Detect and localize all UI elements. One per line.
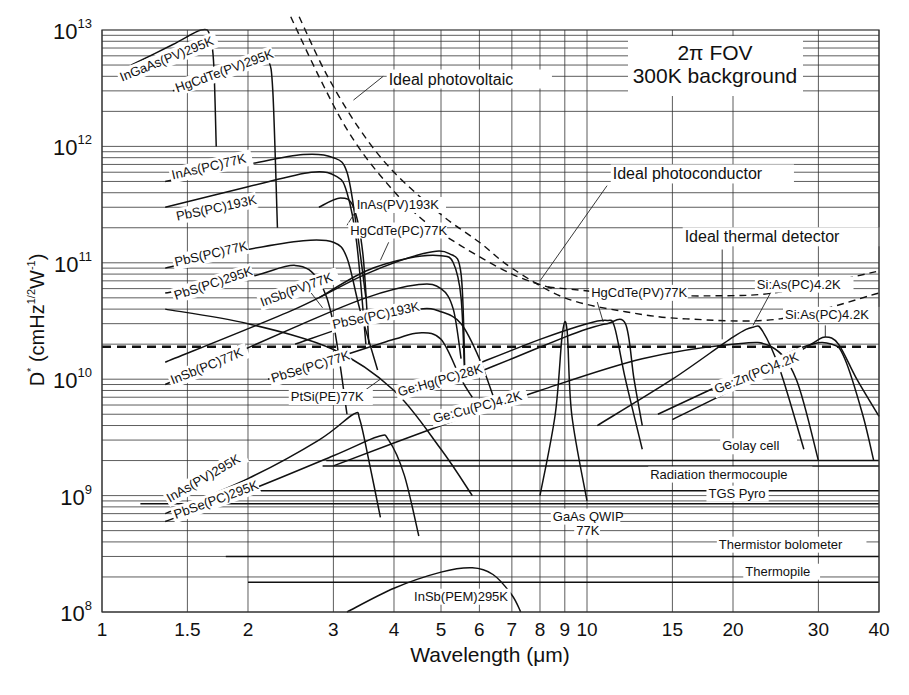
- y-tick-label: 109: [60, 482, 92, 510]
- curve-label: Ideal photoconductor: [611, 164, 794, 183]
- curve-label: PbSe(PC)77K: [267, 347, 352, 387]
- x-tick-label: 30: [808, 619, 829, 640]
- curve-label: PbS(PC)77K: [171, 238, 249, 271]
- svg-text:Golay cell: Golay cell: [722, 438, 779, 453]
- curve-label: Ideal thermal detector: [683, 227, 884, 246]
- detectivity-chart: InGaAs(PV)295KHgCdTe(PV)295KIdeal photov…: [0, 0, 909, 695]
- curve-label: Golay cell: [720, 438, 797, 454]
- curve-label: Radiation thermocouple: [648, 467, 812, 483]
- svg-text:D* (cmHz1/2W-1): D* (cmHz1/2W-1): [25, 254, 48, 387]
- svg-text:Ge:Zn(PC)4.2K: Ge:Zn(PC)4.2K: [712, 349, 801, 397]
- svg-text:77K: 77K: [576, 523, 599, 538]
- curve-ideal-photovoltaic: [291, 17, 553, 289]
- curve-label: HgCdTe(PV)77K: [589, 285, 688, 301]
- y-axis-label: D* (cmHz1/2W-1): [25, 254, 48, 387]
- plot-frame: [102, 30, 879, 612]
- svg-text:Thermistor bolometer: Thermistor bolometer: [719, 537, 843, 552]
- svg-text:TGS Pyro: TGS Pyro: [708, 486, 765, 501]
- curve-label: Thermistor bolometer: [717, 537, 867, 553]
- svg-text:HgCdTe(PV)77K: HgCdTe(PV)77K: [591, 285, 687, 300]
- fov-annotation-line2: 300K background: [633, 64, 798, 87]
- x-tick-label: 3: [328, 619, 339, 640]
- x-tick-label: 1.5: [174, 619, 200, 640]
- y-tick-label: 108: [60, 598, 92, 626]
- svg-text:HgCdTe(PC)77K: HgCdTe(PC)77K: [350, 223, 447, 238]
- svg-text:Ideal thermal detector: Ideal thermal detector: [685, 228, 840, 245]
- curve-label: Ideal photovoltaic: [387, 70, 552, 89]
- curves: [102, 17, 879, 612]
- svg-text:InSb(PEM)295K: InSb(PEM)295K: [414, 589, 508, 604]
- svg-text:PbSe(PC)193K: PbSe(PC)193K: [331, 299, 421, 332]
- label-leader-line: [540, 186, 607, 281]
- svg-text:PbS(PC)77K: PbS(PC)77K: [173, 238, 249, 269]
- svg-text:Ge:Hg(PC)28K: Ge:Hg(PC)28K: [396, 361, 484, 400]
- curve-label: InAs(PV)193K: [355, 197, 446, 213]
- x-tick-label: 2: [243, 619, 254, 640]
- curve-label: TGS Pyro: [706, 486, 768, 502]
- svg-text:Radiation thermocouple: Radiation thermocouple: [650, 467, 787, 482]
- svg-text:Si:As(PC)4.2K: Si:As(PC)4.2K: [757, 277, 841, 292]
- x-tick-label: 15: [662, 619, 683, 640]
- fov-annotation-line1: 2π FOV: [677, 41, 752, 64]
- label-leader-line: [380, 242, 388, 260]
- curve-label: InAs(PC)77K: [168, 149, 254, 184]
- y-tick-label: 1010: [53, 365, 92, 393]
- curve-label: InSb(PC)77K: [167, 343, 251, 389]
- y-tick-label: 1013: [53, 16, 92, 44]
- curve-label: PbS(PC)193K: [173, 192, 259, 225]
- y-tick-label: 1011: [54, 249, 92, 277]
- y-tick-label: 1012: [53, 132, 92, 160]
- label-leader-line: [353, 76, 383, 100]
- curve-label: PbSe(PC)193K: [329, 299, 422, 334]
- x-tick-label: 9: [560, 619, 571, 640]
- x-tick-label: 1: [97, 619, 108, 640]
- svg-text:InAs(PV)193K: InAs(PV)193K: [357, 197, 440, 212]
- curve-label: Ge:Hg(PC)28K: [394, 360, 486, 401]
- grid: [102, 30, 879, 612]
- x-tick-label: 7: [507, 619, 518, 640]
- curve-gaas-qwip-77k: [540, 322, 587, 501]
- curve-label: 77K: [574, 523, 600, 539]
- x-tick-label: 6: [474, 619, 485, 640]
- curve-label: InSb(PEM)295K: [412, 589, 511, 605]
- svg-text:PbS(PC)295K: PbS(PC)295K: [172, 263, 255, 303]
- curve-label: Si:As(PC)4.2K: [755, 277, 854, 293]
- svg-text:InSb(PC)77K: InSb(PC)77K: [168, 345, 245, 388]
- x-tick-label: 20: [722, 619, 743, 640]
- x-tick-label: 10: [576, 619, 597, 640]
- x-tick-label: 5: [436, 619, 447, 640]
- svg-text:Si:As(PC)4.2K: Si:As(PC)4.2K: [785, 307, 869, 322]
- svg-text:Ideal photoconductor: Ideal photoconductor: [613, 165, 763, 182]
- fov-annotation-box: 2π FOV 300K background: [628, 36, 803, 96]
- x-tick-label: 4: [389, 619, 400, 640]
- x-tick-label: 8: [535, 619, 546, 640]
- curve-labels: InGaAs(PV)295KHgCdTe(PV)295KIdeal photov…: [116, 32, 884, 605]
- curve-label: Thermopile: [743, 564, 820, 580]
- svg-text:GaAs QWIP: GaAs QWIP: [553, 509, 624, 524]
- svg-text:PtSi(PE)77K: PtSi(PE)77K: [291, 389, 364, 404]
- curve-label: HgCdTe(PC)77K: [348, 223, 447, 239]
- label-leader-line: [597, 302, 603, 322]
- curve-label: Si:As(PC)4.2K: [783, 307, 882, 323]
- svg-text:InAs(PC)77K: InAs(PC)77K: [170, 151, 248, 183]
- svg-text:Ideal photovoltaic: Ideal photovoltaic: [389, 71, 514, 88]
- curve-label: PtSi(PE)77K: [289, 389, 373, 405]
- svg-text:Thermopile: Thermopile: [745, 564, 810, 579]
- x-axis-label: Wavelength (μm): [410, 643, 570, 666]
- x-tick-label: 40: [868, 619, 889, 640]
